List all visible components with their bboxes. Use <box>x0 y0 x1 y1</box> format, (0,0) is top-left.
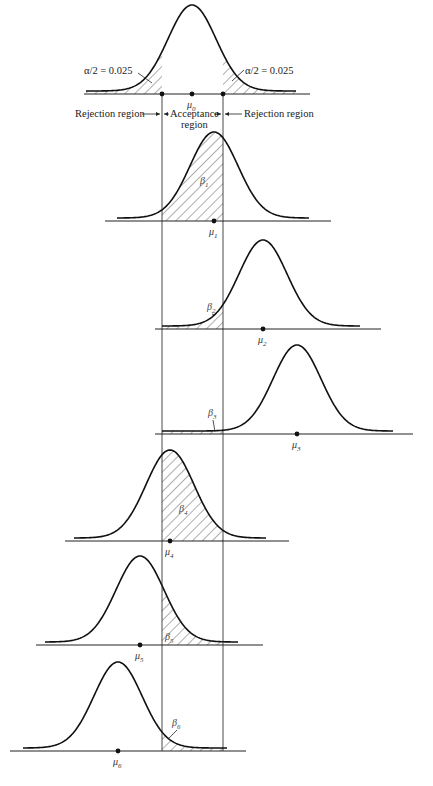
mean-dot <box>261 327 266 332</box>
beta-label: β2 <box>206 301 216 315</box>
normal-curve <box>162 240 360 326</box>
alpha-right-label: α/2 = 0.025 <box>245 65 293 76</box>
rejection-right-label: Rejection region <box>244 108 314 119</box>
left-critical-dot <box>160 92 165 97</box>
beta-label: β3 <box>207 407 217 421</box>
mean-label: μ1 <box>208 226 218 240</box>
alpha-left-label: α/2 = 0.025 <box>84 65 132 76</box>
mean-label: μ2 <box>257 334 267 348</box>
mean-label: μ3 <box>291 439 301 453</box>
mean-dot <box>168 539 173 544</box>
acceptance-label-line2: region <box>181 119 209 130</box>
mean-dot <box>116 749 121 754</box>
mean-label: μ6 <box>112 756 122 770</box>
arrowhead-icon <box>156 112 160 116</box>
mean-label: μ4 <box>164 546 174 560</box>
mean-dot <box>212 219 217 224</box>
alt-panel-3: μ3β3 <box>155 345 413 453</box>
beta-hatched-area <box>162 450 223 541</box>
alt-panel-6: μ6β6 <box>10 662 246 770</box>
arrowhead-icon <box>225 112 229 116</box>
null-normal-curve <box>86 5 296 91</box>
beta-label: β6 <box>171 717 181 731</box>
alternative-distribution-panels: μ1β1μ2β2μ3β3μ4β4μ5β5μ6β6 <box>10 132 413 770</box>
mean-dot <box>295 432 300 437</box>
alt-panel-2: μ2β2 <box>155 240 381 348</box>
normal-curve <box>23 662 227 748</box>
alt-panel-5: μ5β5 <box>36 556 263 664</box>
normal-curve <box>162 345 393 431</box>
arrowhead-icon <box>217 112 221 116</box>
beta-hatched-area <box>162 132 223 221</box>
right-critical-dot <box>221 92 226 97</box>
arrowhead-icon <box>164 112 168 116</box>
alt-panel-1: μ1β1 <box>105 132 331 240</box>
mean-label: μ5 <box>134 650 144 664</box>
mu0-dot <box>190 92 195 97</box>
null-distribution-panel: μ0 α/2 = 0.025 α/2 = 0.025 Rejection reg… <box>75 5 314 130</box>
rejection-left-label: Rejection region <box>75 108 145 119</box>
mean-dot <box>138 643 143 648</box>
normal-curve <box>45 556 238 642</box>
hypothesis-test-power-diagram: μ0 α/2 = 0.025 α/2 = 0.025 Rejection reg… <box>0 0 433 786</box>
acceptance-label-line1: Acceptance <box>170 108 219 119</box>
alt-panel-4: μ4β4 <box>65 450 289 560</box>
beta-pointer <box>168 730 177 739</box>
